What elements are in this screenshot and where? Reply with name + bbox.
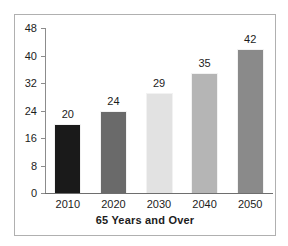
y-axis-tick-label: 24 [15, 106, 37, 117]
y-axis-tick-label: 16 [15, 133, 37, 144]
bar-group: 352040 [191, 28, 218, 193]
bar-value-label: 35 [181, 58, 228, 69]
x-axis-line [45, 193, 273, 194]
bar-value-label: 20 [44, 109, 91, 120]
bar-2040 [191, 73, 218, 193]
x-axis-category-label: 2020 [88, 199, 139, 210]
y-axis-tick-mark [41, 193, 45, 194]
y-axis-tick-label: 40 [15, 51, 37, 62]
bar-2030 [146, 93, 173, 193]
bar-2020 [100, 111, 127, 194]
x-axis-category-label: 2030 [134, 199, 185, 210]
plot-area: 202010242020292030352040422050 [45, 28, 273, 193]
x-axis-category-label: 2040 [179, 199, 230, 210]
x-axis-category-label: 2050 [225, 199, 276, 210]
bar-group: 422050 [237, 28, 264, 193]
bar-group: 242020 [100, 28, 127, 193]
bar-chart: 484032241680 202010242020292030352040422… [0, 0, 288, 246]
bar-2010 [54, 124, 81, 193]
y-axis-tick-label: 32 [15, 78, 37, 89]
y-axis-tick-label: 48 [15, 23, 37, 34]
x-axis-category-label: 2010 [42, 199, 93, 210]
bar-group: 292030 [146, 28, 173, 193]
bar-group: 202010 [54, 28, 81, 193]
y-axis-tick-label: 8 [15, 161, 37, 172]
bar-value-label: 24 [90, 96, 137, 107]
y-axis-tick-label: 0 [15, 188, 37, 199]
bar-2050 [237, 49, 264, 193]
bar-value-label: 42 [227, 34, 274, 45]
bar-value-label: 29 [136, 78, 183, 89]
chart-title: 65 Years and Over [15, 214, 275, 226]
